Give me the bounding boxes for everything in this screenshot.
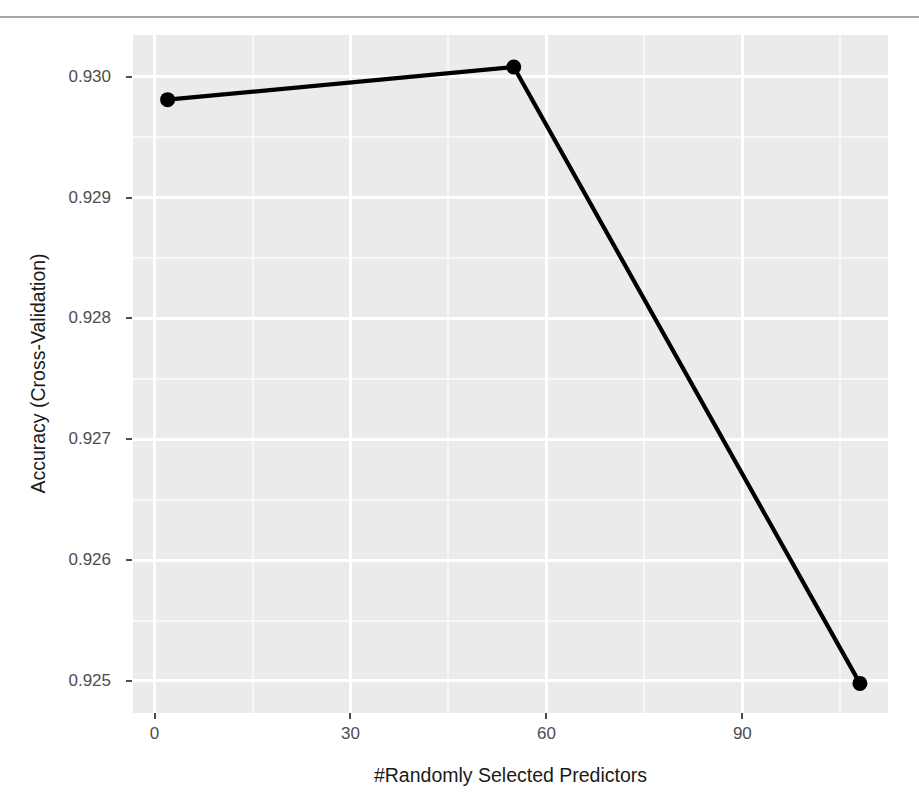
chart-figure: Accuracy (Cross-Validation) 0.9250.9260.…	[0, 22, 919, 807]
data-point-1[interactable]	[506, 60, 521, 75]
y-tick-label-0.927: 0.927	[39, 429, 111, 449]
x-tick-mark-60	[545, 713, 547, 719]
data-line-series	[168, 67, 860, 683]
data-point-0[interactable]	[160, 92, 175, 107]
y-tick-label-0.928: 0.928	[39, 308, 111, 328]
y-tick-mark-0.925	[126, 680, 132, 682]
screenshot-root: Accuracy (Cross-Validation) 0.9250.9260.…	[0, 0, 919, 807]
y-tick-mark-0.927	[126, 438, 132, 440]
y-tick-label-0.929: 0.929	[39, 188, 111, 208]
plot-panel	[133, 35, 888, 713]
x-tick-mark-30	[349, 713, 351, 719]
data-point-group	[160, 60, 867, 691]
y-tick-mark-0.926	[126, 559, 132, 561]
x-tick-mark-0	[154, 713, 156, 719]
y-tick-mark-0.928	[126, 317, 132, 319]
data-layer	[133, 35, 888, 713]
y-tick-label-0.925: 0.925	[39, 671, 111, 691]
x-tick-mark-90	[741, 713, 743, 719]
data-point-2[interactable]	[852, 676, 867, 691]
x-tick-label-90: 90	[702, 724, 782, 744]
y-tick-label-0.930: 0.930	[39, 67, 111, 87]
x-axis-title: #Randomly Selected Predictors	[133, 764, 888, 787]
x-tick-label-30: 30	[310, 724, 390, 744]
x-tick-label-60: 60	[506, 724, 586, 744]
y-tick-label-0.926: 0.926	[39, 550, 111, 570]
x-tick-label-0: 0	[115, 724, 195, 744]
y-tick-mark-0.930	[126, 76, 132, 78]
y-axis-ticks: 0.9250.9260.9270.9280.9290.930	[0, 22, 133, 807]
y-tick-mark-0.929	[126, 197, 132, 199]
page-separator-rule	[0, 16, 919, 18]
